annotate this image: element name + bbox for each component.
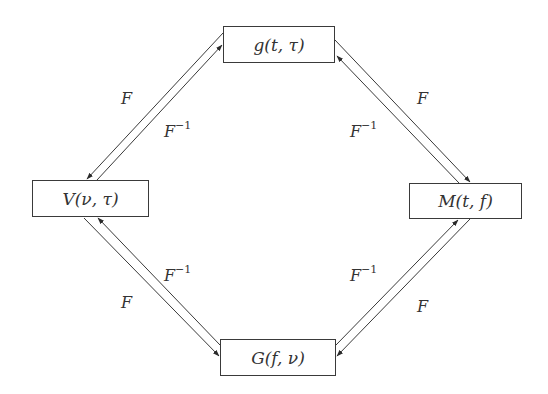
node-label: M(t, f) (438, 191, 493, 211)
node-g-t-tau: g(t, τ) (223, 26, 335, 63)
arrow-V-to-G (84, 218, 219, 356)
node-V-nu-tau: V(ν, τ) (32, 180, 149, 217)
arrow-G-to-V (98, 218, 220, 345)
node-label: V(ν, τ) (62, 189, 118, 209)
label-tl-inverse: F−1 (164, 121, 191, 141)
label-br-inverse: F−1 (350, 265, 377, 285)
label-bl-inverse: F−1 (164, 265, 191, 285)
node-label: g(t, τ) (253, 35, 304, 55)
fourier-relations-diagram: g(t, τ) V(ν, τ) M(t, f) G(f, ν) F F−1 F … (0, 0, 548, 394)
label-br-forward: F (417, 297, 428, 316)
node-M-t-f: M(t, f) (409, 183, 522, 219)
node-G-f-nu: G(f, ν) (220, 339, 336, 376)
label-tr-forward: F (417, 89, 428, 108)
arrow-g-to-M (335, 40, 470, 182)
arrow-g-to-V (87, 33, 223, 179)
arrow-M-to-G (337, 219, 470, 356)
label-tl-forward: F (121, 89, 132, 108)
node-label: G(f, ν) (251, 348, 305, 368)
arrow-V-to-g (97, 45, 222, 180)
arrow-M-to-g (337, 56, 459, 183)
label-bl-forward: F (121, 293, 132, 312)
label-tr-inverse: F−1 (350, 121, 377, 141)
